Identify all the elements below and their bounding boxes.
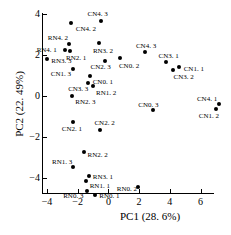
data-point bbox=[217, 102, 221, 106]
data-point-label: RN3. 3 bbox=[51, 57, 71, 65]
pca-scatter-plot: −4−20246 420−2−4 CN4. 3CN4. 2RN4. 2RN4. … bbox=[0, 0, 231, 235]
y-tick-label: −4 bbox=[18, 173, 40, 183]
data-point bbox=[143, 50, 147, 54]
data-point bbox=[45, 57, 49, 61]
x-axis-title: PC1 (28. 6%) bbox=[120, 210, 180, 222]
y-tick-mark bbox=[43, 178, 47, 179]
data-point-label: CN3. 2 bbox=[174, 73, 194, 81]
data-point-label: RN4. 1 bbox=[37, 46, 57, 54]
y-tick-label: 4 bbox=[18, 9, 40, 19]
data-point-label: CN2. 3 bbox=[91, 63, 111, 71]
data-point bbox=[118, 56, 122, 60]
data-point bbox=[69, 21, 73, 25]
data-point bbox=[82, 150, 86, 154]
data-point-label: CN2. 2 bbox=[94, 119, 114, 127]
y-tick-mark bbox=[43, 137, 47, 138]
data-point bbox=[71, 67, 75, 71]
x-tick-label: 6 bbox=[189, 196, 213, 207]
data-point-label: CN4. 3 bbox=[136, 42, 156, 50]
data-point-label: RN2. 2 bbox=[88, 151, 108, 159]
data-point-label: RN2. 3 bbox=[75, 98, 95, 106]
x-tick-label: 2 bbox=[127, 196, 151, 207]
data-point bbox=[68, 49, 72, 53]
data-point bbox=[98, 128, 102, 132]
data-point bbox=[97, 41, 101, 45]
data-point bbox=[99, 19, 103, 23]
data-point bbox=[171, 68, 175, 72]
data-point-label: CN1. 3 bbox=[51, 70, 71, 78]
data-point bbox=[214, 107, 218, 111]
plot-canvas: −4−20246 420−2−4 CN4. 3CN4. 2RN4. 2RN4. … bbox=[0, 0, 231, 235]
data-point-label: RN1. 1 bbox=[90, 182, 110, 190]
data-point-label: CN0. 3 bbox=[138, 101, 158, 109]
data-point-label: CN4. 2 bbox=[76, 25, 96, 33]
data-point bbox=[84, 179, 88, 183]
x-tick-mark bbox=[201, 189, 202, 193]
data-point-label: CN3. 3 bbox=[68, 85, 88, 93]
data-point bbox=[70, 94, 74, 98]
x-tick-mark bbox=[47, 189, 48, 193]
x-tick-mark bbox=[139, 189, 140, 193]
data-point-label: CN4. 1 bbox=[197, 95, 217, 103]
data-point bbox=[87, 174, 91, 178]
y-axis-title: PC2 (22. 49%) bbox=[13, 49, 25, 159]
data-point-label: CN0. 1 bbox=[93, 78, 113, 86]
data-point-label: CN1. 1 bbox=[184, 65, 204, 73]
y-tick-mark bbox=[43, 55, 47, 56]
data-point-label: RN0. 3 bbox=[63, 192, 83, 200]
data-point-label: CN1. 2 bbox=[199, 112, 219, 120]
data-point-label: RN1. 3 bbox=[52, 158, 72, 166]
y-tick-mark bbox=[43, 14, 47, 15]
data-point bbox=[67, 42, 71, 46]
data-point-label: RN0. 1 bbox=[99, 192, 119, 200]
x-tick-mark bbox=[170, 189, 171, 193]
data-point-label: RN1. 2 bbox=[96, 89, 116, 97]
data-point-label: RN4. 2 bbox=[48, 34, 68, 42]
data-point-label: CN4. 3 bbox=[87, 10, 107, 18]
data-point bbox=[88, 74, 92, 78]
data-point-label: CN0. 2 bbox=[119, 62, 139, 70]
data-point-label: RN3. 1 bbox=[93, 173, 113, 181]
data-point-label: RN3. 2 bbox=[93, 47, 113, 55]
data-point bbox=[164, 60, 168, 64]
y-axis-line bbox=[42, 13, 43, 194]
y-tick-mark bbox=[43, 96, 47, 97]
data-point-label: CN3. 1 bbox=[159, 52, 179, 60]
data-point-label: RN0. 2 bbox=[117, 185, 137, 193]
data-point-label: CN2. 1 bbox=[62, 125, 82, 133]
data-point bbox=[85, 189, 89, 193]
data-point bbox=[91, 84, 95, 88]
data-point bbox=[177, 65, 181, 69]
data-point bbox=[71, 120, 75, 124]
data-point bbox=[63, 48, 67, 52]
x-tick-label: 4 bbox=[158, 196, 182, 207]
x-tick-label: −4 bbox=[35, 196, 59, 207]
